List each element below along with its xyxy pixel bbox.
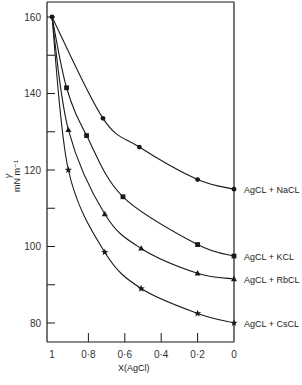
- x-tick-label: 0: [231, 349, 237, 360]
- x-tick-label: 0·2: [190, 349, 205, 360]
- x-tick-label: 0·4: [154, 349, 169, 360]
- circle-marker-icon: [232, 187, 237, 192]
- series-markers: [50, 15, 238, 326]
- star-marker-icon: [194, 310, 201, 317]
- curve-triangle: [52, 17, 234, 279]
- y-axis-symbol: γ: [3, 173, 13, 178]
- triangle-marker-icon: [102, 211, 108, 216]
- star-marker-icon: [101, 248, 108, 255]
- square-marker-icon: [121, 194, 126, 199]
- x-tick-label: 0·6: [118, 349, 133, 360]
- series-label: AgCL + NaCL: [244, 185, 299, 195]
- plot-frame: [47, 2, 234, 342]
- curve-square: [52, 17, 234, 256]
- triangle-marker-icon: [138, 245, 144, 250]
- series-curves: [52, 17, 234, 323]
- surface-tension-chart: 80100120140160 10·80·60·40·20 AgCL + NaC…: [0, 0, 302, 385]
- y-axis-units: mN m⁻¹: [12, 160, 22, 192]
- triangle-marker-icon: [65, 127, 71, 132]
- circle-marker-icon: [195, 177, 200, 182]
- x-tick-label: 1: [49, 349, 55, 360]
- y-axis-ticks: 80100120140160: [24, 12, 55, 329]
- square-marker-icon: [64, 85, 69, 90]
- y-tick-label: 140: [24, 88, 41, 99]
- series-label: AgCL + RbCL: [244, 275, 299, 285]
- curve-star: [52, 17, 234, 323]
- circle-marker-icon: [101, 116, 106, 121]
- y-axis-title: mN m⁻¹ γ: [3, 160, 22, 192]
- circle-marker-icon: [137, 145, 142, 150]
- y-tick-label: 80: [30, 318, 42, 329]
- x-axis-title: X(AgCl): [118, 363, 150, 373]
- series-label: AgCL + KCL: [244, 252, 294, 262]
- x-axis-ticks: 10·80·60·40·20: [49, 333, 237, 360]
- start-point-marker-icon: [50, 15, 55, 20]
- series-labels: AgCL + NaCLAgCL + KCLAgCL + RbCLAgCL + C…: [244, 185, 299, 329]
- square-marker-icon: [232, 254, 237, 259]
- y-tick-label: 160: [24, 12, 41, 23]
- x-tick-label: 0·8: [81, 349, 96, 360]
- series-label: AgCL + CsCL: [244, 319, 299, 329]
- y-tick-label: 120: [24, 165, 41, 176]
- y-tick-label: 100: [24, 241, 41, 252]
- square-marker-icon: [195, 242, 200, 247]
- square-marker-icon: [84, 133, 89, 138]
